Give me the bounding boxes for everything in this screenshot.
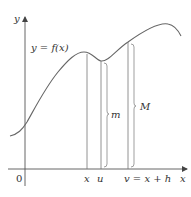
point-label-v: v = x + h <box>124 173 171 184</box>
point-label-u: u <box>97 173 103 184</box>
diagram-canvas: y x 0 y = f(x) x u v = x + h m M <box>0 0 191 197</box>
point-label-x: x <box>84 173 90 184</box>
brace-label-m: m <box>111 109 120 120</box>
y-axis-label: y <box>13 13 20 24</box>
brace-M <box>131 44 136 167</box>
curve-label: y = f(x) <box>30 42 69 53</box>
brace-label-M: M <box>139 101 151 112</box>
brace-m <box>104 63 109 167</box>
origin-label: 0 <box>16 173 22 184</box>
x-axis-label: x <box>180 173 186 184</box>
function-curve <box>10 24 181 136</box>
